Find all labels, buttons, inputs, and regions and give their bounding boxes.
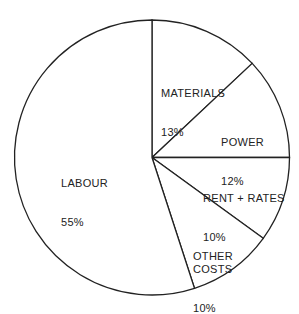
label-power-name: POWER [221, 136, 264, 149]
label-other-costs-name: OTHER COSTS [193, 250, 233, 276]
label-other-costs: OTHER COSTS 10% [193, 224, 233, 314]
label-labour-pct: 55% [61, 216, 108, 229]
label-labour: LABOUR 55% [61, 151, 108, 242]
label-rent-rates-name: RENT + RATES [203, 192, 285, 205]
label-labour-name: LABOUR [61, 177, 108, 190]
label-materials: MATERIALS 13% [161, 61, 225, 152]
label-materials-name: MATERIALS [161, 87, 225, 100]
label-materials-pct: 13% [161, 126, 225, 139]
label-other-costs-pct: 10% [193, 302, 233, 314]
